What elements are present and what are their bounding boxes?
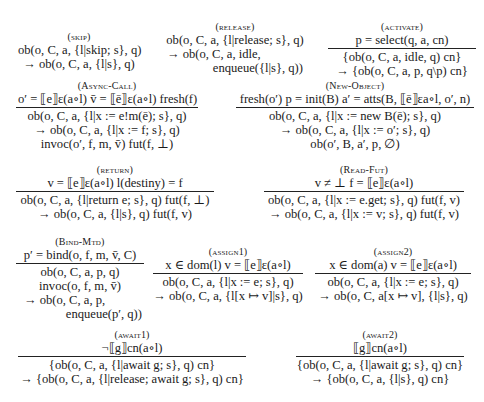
rule-async-call: (Async-Call) o′ = ⟦e⟧ε(a∘l) v̄ = ⟦ē⟧ε(a∘… xyxy=(16,80,198,151)
rule-name: (Async-Call) xyxy=(16,80,198,92)
rule-conclusion-line: ob(o′, B, a′, p, ∅) xyxy=(236,137,474,151)
rule-conclusion-line: {ob(o, C, a, {l|await g; s}, q) cn} xyxy=(18,358,246,372)
rule-conclusion-line: → {ob(o, C, a, p, q\p) cn} xyxy=(328,64,476,78)
rule-conclusion-line: ob(o, C, a, {l|skip; s}, q) xyxy=(18,43,140,57)
rule-conclusion-line: ob(o, C, a, {l|x := e; s}, q) xyxy=(153,275,303,289)
inference-bar xyxy=(236,107,474,108)
rule-name: (assign1) xyxy=(153,246,303,258)
rule-conclusion-line: ob(o, C, a, {l|release; s}, q) xyxy=(165,33,305,47)
rule-conclusion-line: → ob(o, C, a, {l|s}, q) xyxy=(18,57,140,71)
inference-bar xyxy=(315,273,471,274)
inference-bar xyxy=(153,273,303,274)
rule-name: (skip) xyxy=(18,31,140,43)
inference-bar xyxy=(328,48,476,49)
rule-await1: (await1) ¬⟦g⟧cn(a∘l) {ob(o, C, a, {l|awa… xyxy=(18,329,246,386)
rule-conclusion-line: ob(o, C, a, {l|return e; s}, q) fut(f, ⊥… xyxy=(16,193,214,207)
rule-conclusion-line: → ob(o, C, a, {l|x := o′; s}, q) xyxy=(236,123,474,137)
rule-assign1: (assign1) x ∈ dom(l) v = ⟦e⟧ε(a∘l) ob(o,… xyxy=(153,246,303,303)
rule-conclusion-line: → ob(o, C, a, idle, xyxy=(165,47,305,61)
rule-conclusion-line: {ob(o, C, a, {l|await g; s}, q) cn} xyxy=(296,358,464,372)
rule-conclusion-line: → ob(o, C, a, p, xyxy=(16,293,144,307)
rule-conclusion-line: → {ob(o, C, a, {l|release; await g; s}, … xyxy=(18,372,246,386)
rule-conclusion-line: → {ob(o, C, a, {l|s}, q) cn} xyxy=(296,372,464,386)
rule-name: (assign2) xyxy=(315,246,471,258)
rule-conclusion-line: → ob(o, C, a, {l|x := v; s}, q) fut(f, v… xyxy=(264,207,464,221)
rule-release: (release) ob(o, C, a, {l|release; s}, q)… xyxy=(165,21,305,75)
rule-return: (return) v = ⟦e⟧ε(a∘l) l(destiny) = f ob… xyxy=(16,164,214,221)
rule-premise: ⟦g⟧cn(a∘l) xyxy=(296,341,464,355)
rule-name: (await1) xyxy=(18,329,246,341)
rule-activate: (activate) p = select(q, a, cn) {ob(o, C… xyxy=(328,21,476,78)
rule-conclusion-line: ob(o, C, a, p, q) xyxy=(16,265,144,279)
rule-conclusion-line: → ob(o, C, a, {l[x ↦ v]|s}, q) xyxy=(153,289,303,303)
rule-conclusion-line: ob(o, C, a, {l|x := e; s}, q) xyxy=(315,275,471,289)
rule-premise: o′ = ⟦e⟧ε(a∘l) v̄ = ⟦ē⟧ε(a∘l) fresh(f) xyxy=(16,92,198,106)
rule-conclusion-line: → ob(o, C, a[x ↦ v], {l|s}, q) xyxy=(315,289,471,303)
rule-bind-mtd: (Bind-Mtd) p′ = bind(o, f, m, v̄, C) ob(… xyxy=(16,236,144,321)
rule-skip: (skip) ob(o, C, a, {l|skip; s}, q) → ob(… xyxy=(18,31,140,71)
rule-conclusion-line: invoc(o′, f, m, v̄) fut(f, ⊥) xyxy=(16,137,198,151)
rule-conclusion-line: enqueue({l|s}, q)) xyxy=(165,61,305,75)
rule-name: (New-Object) xyxy=(236,80,474,92)
rule-premise: p′ = bind(o, f, m, v̄, C) xyxy=(16,248,144,262)
rule-name: (await2) xyxy=(296,329,464,341)
rule-await2: (await2) ⟦g⟧cn(a∘l) {ob(o, C, a, {l|awai… xyxy=(296,329,464,386)
rule-premise: x ∈ dom(l) v = ⟦e⟧ε(a∘l) xyxy=(153,258,303,272)
rule-conclusion-line: invoc(o, f, m, v̄) xyxy=(16,279,144,293)
rule-premise: p = select(q, a, cn) xyxy=(328,33,476,47)
inference-bar xyxy=(18,356,246,357)
inference-bar xyxy=(296,356,464,357)
rule-premise: ¬⟦g⟧cn(a∘l) xyxy=(18,341,246,355)
inference-bar xyxy=(16,263,144,264)
inference-bar xyxy=(264,191,464,192)
rule-conclusion-line: ob(o, C, a, {l|x := new B(ē); s}, q) xyxy=(236,109,474,123)
rule-conclusion-line: → ob(o, C, a, {l|x := f; s}, q) xyxy=(16,123,198,137)
rule-read-fut: (Read-Fut) v ≠ ⊥ f = ⟦e⟧ε(a∘l) ob(o, C, … xyxy=(264,164,464,221)
rule-premise: v = ⟦e⟧ε(a∘l) l(destiny) = f xyxy=(16,176,214,190)
rule-premise: v ≠ ⊥ f = ⟦e⟧ε(a∘l) xyxy=(264,176,464,190)
rule-name: (Bind-Mtd) xyxy=(16,236,144,248)
rule-name: (release) xyxy=(165,21,305,33)
rule-assign2: (assign2) x ∈ dom(a) v = ⟦e⟧ε(a∘l) ob(o,… xyxy=(315,246,471,303)
rule-premise: fresh(o′) p = init(B) a′ = atts(B, ⟦ē⟧εa… xyxy=(236,92,474,106)
inference-bar xyxy=(16,107,198,108)
rule-conclusion-line: ob(o, C, a, {l|x := e.get; s}, q) fut(f,… xyxy=(264,193,464,207)
rule-premise: x ∈ dom(a) v = ⟦e⟧ε(a∘l) xyxy=(315,258,471,272)
rule-name: (activate) xyxy=(328,21,476,33)
rule-name: (return) xyxy=(16,164,214,176)
inference-bar xyxy=(16,191,214,192)
rule-conclusion-line: {ob(o, C, a, idle, q) cn} xyxy=(328,50,476,64)
rule-conclusion-line: enqueue(p′, q)) xyxy=(16,307,144,321)
rule-name: (Read-Fut) xyxy=(264,164,464,176)
rule-conclusion-line: ob(o, C, a, {l|x := e!m(ē); s}, q) xyxy=(16,109,198,123)
rule-conclusion-line: → ob(o, C, a, {l|s}, q) fut(f, v) xyxy=(16,207,214,221)
rule-new-object: (New-Object) fresh(o′) p = init(B) a′ = … xyxy=(236,80,474,151)
